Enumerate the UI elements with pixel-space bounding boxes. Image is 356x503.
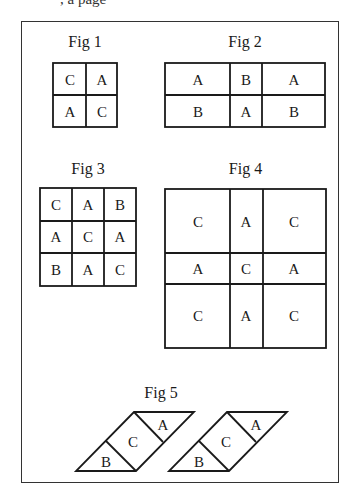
fig3-cell: C: [51, 197, 61, 213]
fig4-cell: C: [241, 261, 251, 277]
fig4-cell: C: [193, 214, 203, 230]
fig3-cell: A: [115, 229, 126, 245]
fig4-cell: C: [193, 308, 203, 324]
fig4-cell: C: [289, 308, 299, 324]
fig2-cell: B: [289, 104, 299, 120]
fig3-cell: B: [51, 262, 61, 278]
fig2-cell: B: [241, 72, 251, 88]
fig3-cell: B: [115, 197, 125, 213]
fig2-cell: A: [193, 72, 204, 88]
fig1-cell: A: [65, 104, 76, 120]
fig5-label-c: C: [128, 434, 138, 450]
fig2-cell: A: [241, 104, 252, 120]
fig5-label-a: A: [251, 417, 262, 433]
figures-canvas: C A A C A B A B A B C A B A C A B A C C …: [0, 0, 356, 503]
fig1-cell: C: [65, 72, 75, 88]
fig5-label-c: C: [221, 434, 231, 450]
fig3-cell: A: [83, 197, 94, 213]
fig5-label-b: B: [101, 454, 111, 470]
fig4-cell: A: [193, 261, 204, 277]
fig5-label-b: B: [194, 454, 204, 470]
fig1-cell: C: [97, 104, 107, 120]
fig3-cell: C: [83, 229, 93, 245]
fig2-cell: A: [289, 72, 300, 88]
fig4-cell: A: [241, 308, 252, 324]
fig4-cell: C: [289, 214, 299, 230]
fig3-cell: A: [83, 262, 94, 278]
fig2-cell: B: [193, 104, 203, 120]
fig3-cell: C: [115, 262, 125, 278]
fig5-label-a: A: [158, 417, 169, 433]
fig4-cell: A: [289, 261, 300, 277]
fig4-cell: A: [241, 214, 252, 230]
fig1-cell: A: [97, 72, 108, 88]
fig3-cell: A: [51, 229, 62, 245]
